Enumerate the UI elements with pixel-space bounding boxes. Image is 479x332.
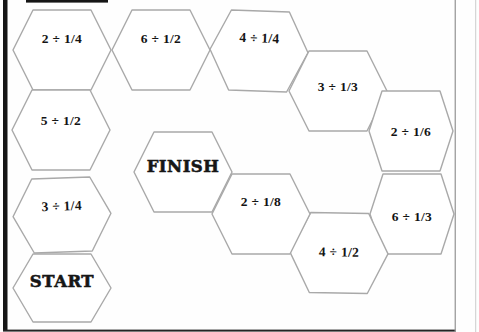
hex-cell-3-div-1-4: 3 ÷ 1/4 — [12, 176, 113, 253]
hex-cell-finish-label: FINISH — [147, 157, 220, 176]
hex-cell-5-div-1-2-label: 5 ÷ 1/2 — [41, 113, 81, 128]
hex-cell-3-div-1-4-label: 3 ÷ 1/4 — [41, 198, 82, 214]
hex-cell-2-div-1-4: 2 ÷ 1/4 — [13, 10, 111, 90]
hex-cell-2-div-1-6: 2 ÷ 1/6 — [369, 91, 453, 171]
hex-cell-finish: FINISH — [134, 132, 232, 212]
hex-cell-3-div-1-4-outline — [12, 176, 113, 253]
hex-cell-5-div-1-2: 5 ÷ 1/2 — [12, 90, 110, 170]
hex-cell-2-div-1-4-outline — [13, 10, 111, 90]
hex-cell-6-div-1-2-label: 6 ÷ 1/2 — [141, 31, 181, 46]
hex-cell-2-div-1-4-label: 2 ÷ 1/4 — [42, 31, 82, 46]
hex-cell-3-div-1-3-label: 3 ÷ 1/3 — [318, 79, 358, 94]
hex-cell-4-div-1-2-label: 4 ÷ 1/2 — [319, 244, 360, 260]
page-right-border — [455, 0, 456, 332]
hex-cell-6-div-1-2: 6 ÷ 1/2 — [112, 10, 210, 90]
worksheet-page: 2 ÷ 1/46 ÷ 1/24 ÷ 1/43 ÷ 1/32 ÷ 1/66 ÷ 1… — [0, 0, 479, 332]
scan-edge-line — [475, 0, 476, 332]
hex-cell-6-div-1-3-label: 6 ÷ 1/3 — [392, 209, 432, 224]
hex-board: 2 ÷ 1/46 ÷ 1/24 ÷ 1/43 ÷ 1/32 ÷ 1/66 ÷ 1… — [0, 0, 479, 332]
hex-cell-4-div-1-4-label: 4 ÷ 1/4 — [239, 30, 280, 46]
hex-cell-start: START — [13, 254, 111, 322]
hex-cells-layer: 2 ÷ 1/46 ÷ 1/24 ÷ 1/43 ÷ 1/32 ÷ 1/66 ÷ 1… — [12, 9, 454, 322]
hex-cell-5-div-1-2-outline — [12, 90, 110, 170]
page-bottom-border — [3, 330, 456, 332]
hex-cell-2-div-1-8-label: 2 ÷ 1/8 — [241, 194, 281, 209]
hex-cell-2-div-1-8-outline — [212, 174, 310, 254]
hex-cell-2-div-1-8: 2 ÷ 1/8 — [212, 174, 310, 254]
hex-cell-start-label: START — [30, 272, 95, 291]
hex-cell-2-div-1-6-label: 2 ÷ 1/6 — [391, 124, 431, 139]
hex-cell-6-div-1-2-outline — [112, 10, 210, 90]
page-left-border — [3, 0, 8, 331]
title-box-bottom-edge — [26, 0, 108, 3]
